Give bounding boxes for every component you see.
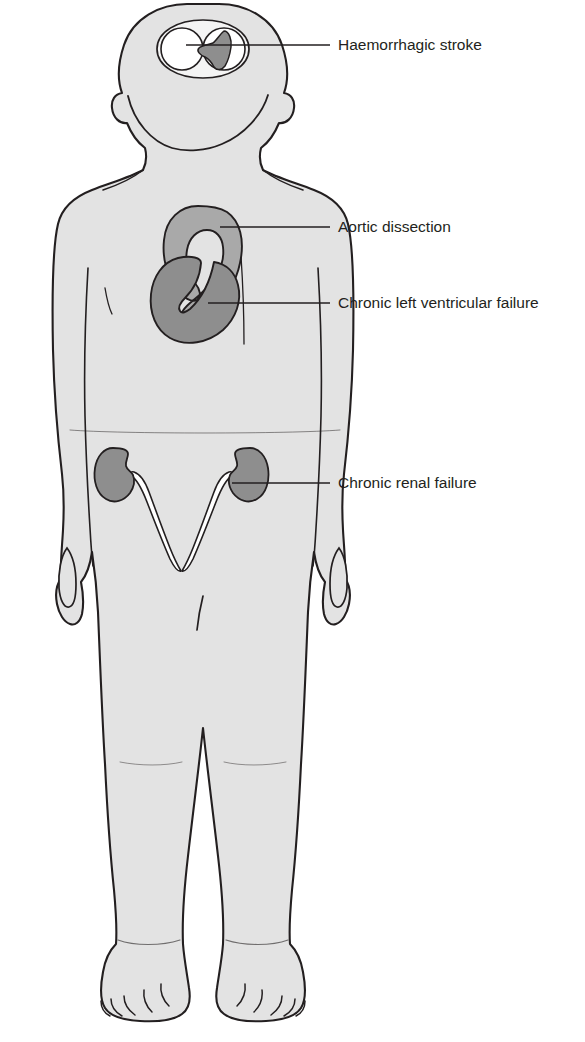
brain-group [157, 20, 249, 78]
label-aortic-dissection: Aortic dissection [338, 218, 451, 235]
brain-left-hemisphere [161, 28, 203, 70]
label-chronic-renal-failure: Chronic renal failure [338, 474, 477, 491]
label-haemorrhagic-stroke: Haemorrhagic stroke [338, 36, 482, 53]
kidney-right [229, 448, 269, 501]
kidney-left [94, 448, 134, 501]
figure-root: Haemorrhagic stroke Aortic dissection Ch… [0, 0, 585, 1042]
label-chronic-left-ventricular-failure: Chronic left ventricular failure [338, 294, 539, 311]
body-diagram: Haemorrhagic stroke Aortic dissection Ch… [0, 0, 585, 1042]
